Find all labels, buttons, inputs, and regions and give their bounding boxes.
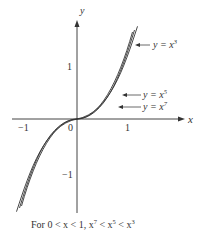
origin-label: 0 xyxy=(68,122,73,133)
svg-text:y = x5: y = x5 xyxy=(142,88,168,100)
x-axis-arrow-icon xyxy=(178,117,185,122)
pointer-arrow-icon xyxy=(135,43,140,47)
pointer-arrow-icon xyxy=(122,93,127,97)
x-axis xyxy=(12,117,185,122)
svg-text:y = x3: y = x3 xyxy=(152,38,178,50)
x-tick-1: 1 xyxy=(125,122,130,133)
power-functions-diagram: y x 0 −1 1 1 −1 y = x3 y = x5 y = x7 For… xyxy=(0,0,202,232)
y-axis-arrow-icon xyxy=(75,20,80,27)
y-tick-neg1: −1 xyxy=(62,169,73,180)
x-axis-label: x xyxy=(187,113,193,125)
caption: For 0 < x < 1, x7 < x5 < x3 xyxy=(31,218,135,230)
y-axis-label: y xyxy=(79,5,85,16)
svg-text:y = x7: y = x7 xyxy=(142,100,168,112)
pointer-arrow-icon xyxy=(118,105,123,109)
label-x3: y = x3 xyxy=(135,38,178,50)
y-tick-1: 1 xyxy=(67,61,72,72)
y-axis xyxy=(75,20,80,213)
x-tick-neg1: −1 xyxy=(18,122,29,133)
label-x5: y = x5 xyxy=(122,88,168,100)
label-x7: y = x7 xyxy=(118,100,168,112)
